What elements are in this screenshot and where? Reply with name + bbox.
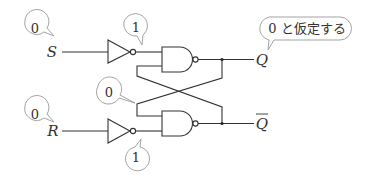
qbar-label: Q: [256, 115, 268, 133]
assumption-note: 0 と仮定する: [268, 21, 345, 36]
r-value-callout: 0: [25, 96, 54, 122]
bottom-nand-bubble: [193, 121, 198, 126]
s-label: S: [47, 43, 57, 61]
bottom-nand-gate: [162, 111, 198, 136]
assumption-callout: 0 と仮定する: [260, 17, 352, 50]
s-value-callout: 0: [25, 10, 54, 36]
top-inverter-value: 1: [132, 20, 140, 35]
bottom-not-bubble: [130, 128, 135, 133]
r-value: 0: [31, 107, 39, 122]
bottom-inverter-value: 1: [132, 150, 140, 165]
s-value: 0: [31, 21, 39, 36]
qbar-label-group: Q: [256, 114, 268, 133]
top-nand-bubble: [193, 57, 198, 62]
bottom-not-gate: [108, 119, 136, 143]
sr-latch-diagram: 0 S 1 Q 0 と仮定する 0 0 R: [0, 0, 366, 182]
top-not-gate: [108, 40, 136, 63]
qbar-junction-dot: [220, 122, 223, 125]
feedback-value-callout: 0: [96, 77, 135, 104]
bottom-inverter-value-callout: 1: [126, 139, 150, 171]
r-label: R: [46, 122, 58, 140]
top-inverter-value-callout: 1: [124, 14, 148, 45]
top-not-bubble: [130, 49, 135, 54]
q-label: Q: [256, 51, 268, 69]
feedback-value: 0: [105, 85, 113, 100]
top-nand-gate: [162, 47, 198, 72]
